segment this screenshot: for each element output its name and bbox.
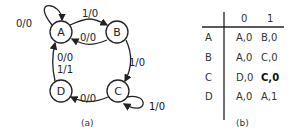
column-header-1: 1	[267, 14, 273, 24]
row-state-b: B	[205, 53, 212, 63]
cell-a-0: A,0	[236, 33, 252, 43]
edge-label-c-d: 0/0	[80, 94, 96, 104]
row-state-d: D	[205, 92, 213, 102]
edge-d-a	[53, 43, 55, 81]
edge-label-b-a: 0/0	[80, 33, 96, 43]
node-b-label: B	[106, 27, 128, 38]
edge-label-d-a-1: 0/0	[57, 53, 73, 63]
caption-a: (a)	[81, 119, 94, 128]
edge-label-a-a: 0/0	[16, 19, 32, 29]
cell-c-0: D,0	[236, 73, 253, 83]
edge-a-b	[70, 19, 107, 25]
edge-label-d-a-2: 1/1	[57, 65, 73, 75]
state-diagram-graphics	[0, 0, 298, 138]
node-c-label: C	[107, 86, 129, 97]
cell-b-0: A,0	[236, 53, 252, 63]
cell-d-1: A,1	[261, 92, 277, 102]
cell-b-1: C,0	[261, 53, 278, 63]
edge-a-a	[44, 6, 62, 25]
cell-d-0: A,0	[236, 92, 252, 102]
edge-label-a-b: 1/0	[82, 9, 98, 19]
row-state-a: A	[205, 33, 212, 43]
node-d-label: D	[50, 86, 72, 97]
row-state-c: C	[205, 73, 212, 83]
caption-b: (b)	[236, 119, 249, 128]
column-header-0: 0	[241, 14, 247, 24]
node-a-label: A	[50, 27, 72, 38]
cell-a-1: B,0	[261, 33, 277, 43]
edge-label-b-c: 1/0	[129, 58, 145, 68]
edge-label-c-c: 1/0	[149, 102, 165, 112]
cell-c-1: C,0	[261, 73, 279, 83]
